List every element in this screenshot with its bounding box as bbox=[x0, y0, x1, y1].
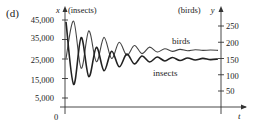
chart: (d) x (insects) (birds) y 45,000 35,000 … bbox=[0, 0, 255, 134]
left-tick-label: 15,000 bbox=[6, 76, 54, 85]
right-tick-label: 200 bbox=[226, 39, 239, 48]
x-axis-unit: (insects) bbox=[68, 5, 97, 15]
y-axis-unit: (birds) bbox=[178, 5, 201, 15]
x-axis-var: x bbox=[56, 5, 60, 15]
left-tick-label: 25,000 bbox=[6, 56, 54, 65]
t-axis-arrow-icon bbox=[241, 105, 247, 110]
birds-label: birds bbox=[172, 36, 190, 46]
x-axis-title: x (insects) bbox=[56, 5, 97, 15]
left-tick-label: 5,000 bbox=[6, 94, 54, 103]
right-tick-label: 250 bbox=[226, 22, 239, 31]
origin-label: 0 bbox=[54, 113, 58, 122]
y-axis-arrow-icon bbox=[219, 6, 224, 12]
right-tick-label: 150 bbox=[226, 56, 239, 65]
y-axis-var: y bbox=[211, 5, 215, 15]
birds-line bbox=[66, 21, 218, 68]
left-tick-label: 35,000 bbox=[6, 34, 54, 43]
y-axis-title: (birds) y bbox=[178, 5, 215, 15]
insects-label: insects bbox=[153, 68, 178, 78]
left-tick-label: 45,000 bbox=[6, 16, 54, 25]
t-axis-label: t bbox=[238, 112, 241, 121]
right-tick-label: 50 bbox=[226, 87, 235, 96]
right-tick-label: 100 bbox=[226, 72, 239, 81]
